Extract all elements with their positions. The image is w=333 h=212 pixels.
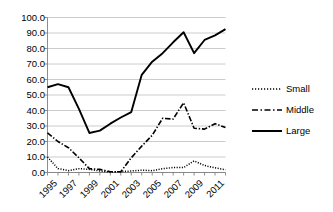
legend-item-middle[interactable]: Middle <box>252 99 332 120</box>
legend-label-large: Large <box>282 126 310 136</box>
legend-line-dotted-icon <box>252 83 282 95</box>
legend-line-dashdot-icon <box>252 104 282 116</box>
line-chart: 100.090.080.070.060.050.040.030.020.010.… <box>0 0 333 212</box>
legend-line-solid-icon <box>252 125 282 137</box>
legend-label-middle: Middle <box>282 105 314 115</box>
legend-label-small: Small <box>282 84 310 94</box>
legend-item-small[interactable]: Small <box>252 78 332 99</box>
legend-item-large[interactable]: Large <box>252 120 332 141</box>
chart-legend: Small Middle Large <box>252 78 332 141</box>
